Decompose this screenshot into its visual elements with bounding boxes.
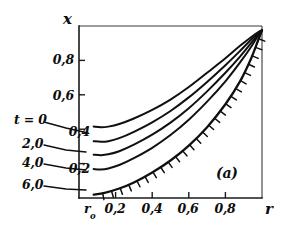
hatch-mark [145, 177, 148, 183]
hatch-mark [168, 162, 172, 167]
y-tick-label-08: 0,8 [40, 54, 74, 67]
x-tick-label-04: 0,4 [138, 203, 166, 216]
y-tick-label-02: 0,2 [56, 163, 90, 176]
panel-label: (a) [216, 166, 238, 180]
y-tick-label-04: 0,4 [56, 126, 90, 139]
hatch-mark [129, 185, 132, 191]
hatch-mark [236, 89, 242, 92]
hatch-mark [137, 181, 140, 187]
hatch-mark [245, 73, 251, 76]
x-axis-label: r [265, 202, 273, 217]
hatch-mark [252, 56, 258, 58]
hatch-mark [120, 188, 122, 194]
x-tick-label-08: 0,8 [211, 203, 239, 216]
hatch-mark [176, 157, 180, 162]
hatch-mark [196, 139, 201, 144]
hatch-mark [190, 145, 194, 150]
hatch-mark [240, 81, 246, 84]
hatch-mark [112, 191, 114, 197]
x-origin-subscript: o [90, 211, 95, 221]
curve-label-t6: 6,0 [22, 179, 43, 192]
hatch-mark [220, 111, 225, 115]
y-tick-label-06: 0,6 [40, 90, 74, 103]
hatch-mark [231, 96, 236, 100]
hatch-mark [183, 151, 187, 156]
y-axis-label: x [63, 12, 72, 27]
hatch-mark [256, 47, 262, 49]
hatch-mark [209, 125, 214, 129]
hatch-mark [215, 118, 220, 122]
curve-label-t0: t = 0 [14, 114, 47, 127]
hatch-mark [203, 132, 208, 136]
hatch-mark [161, 167, 165, 172]
curve-label-t2: 2,0 [22, 138, 43, 151]
x-tick-label-06: 0,6 [174, 203, 202, 216]
hatch-mark [226, 104, 231, 108]
hatch-mark [249, 64, 255, 67]
axis-ticks [79, 60, 225, 198]
curve-label-t4: 4,0 [22, 157, 43, 170]
hatch-mark [153, 172, 156, 178]
figure-container: x r 0,8 0,6 0,4 0,2 ro 0,2 0,4 0,6 0,8 t… [0, 0, 283, 243]
x-origin-label: ro [84, 203, 96, 218]
curve-series-0 [94, 30, 262, 127]
x-tick-label-02: 0,2 [101, 203, 129, 216]
